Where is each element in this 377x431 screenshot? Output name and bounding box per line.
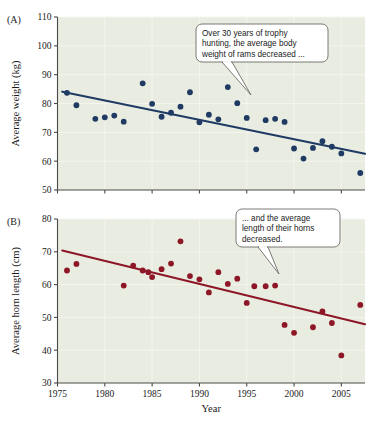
figure-container: 5060708090100110Average weight (kg)(A)30… — [0, 0, 377, 431]
data-point — [225, 84, 231, 90]
x-tick-label-2005: 2005 — [332, 389, 351, 399]
data-point — [301, 156, 307, 162]
x-tick-label-1980: 1980 — [95, 389, 114, 399]
data-point — [64, 90, 70, 96]
data-point — [272, 283, 278, 289]
y-tick-label-B-60: 60 — [42, 280, 52, 290]
data-point — [320, 138, 326, 144]
data-point — [159, 266, 165, 272]
data-point — [74, 102, 80, 108]
y-tick-label-A-90: 90 — [42, 70, 52, 80]
data-point — [320, 309, 326, 315]
panel-label-B: (B) — [7, 216, 20, 228]
data-point — [338, 150, 344, 156]
data-point — [282, 119, 288, 125]
y-tick-label-A-100: 100 — [37, 41, 52, 51]
data-point — [225, 281, 231, 287]
data-point — [102, 114, 108, 120]
data-point — [234, 100, 240, 106]
data-point — [234, 276, 240, 282]
callout-panel-b-line-2: decreased. — [242, 235, 283, 244]
figure-svg: 5060708090100110Average weight (kg)(A)30… — [0, 0, 377, 431]
callout-panel-a-line-0: Over 30 years of trophy — [202, 29, 288, 38]
data-point — [130, 263, 136, 269]
data-point — [206, 290, 212, 296]
x-tick-label-1995: 1995 — [237, 389, 256, 399]
data-point — [357, 302, 363, 308]
data-point — [310, 324, 316, 330]
data-point — [140, 268, 146, 274]
data-point — [187, 89, 193, 95]
data-point — [197, 119, 203, 125]
data-point — [244, 300, 250, 306]
y-tick-label-B-70: 70 — [42, 247, 52, 257]
data-point — [291, 330, 297, 336]
y-tick-label-A-70: 70 — [42, 128, 52, 138]
data-point — [178, 104, 184, 110]
y-tick-label-A-80: 80 — [42, 99, 52, 109]
data-point — [263, 117, 269, 123]
x-tick-label-2000: 2000 — [285, 389, 304, 399]
x-axis-title: Year — [202, 403, 222, 414]
data-point — [206, 112, 212, 118]
panel-label-A: (A) — [7, 14, 21, 26]
y-tick-label-A-110: 110 — [38, 12, 52, 22]
data-point — [291, 146, 297, 152]
callout-panel-b-line-1: length of their horns — [242, 224, 314, 233]
callout-panel-b-line-0: ... and the average — [242, 214, 311, 223]
y-tick-label-B-40: 40 — [42, 346, 52, 356]
y-tick-label-A-50: 50 — [42, 185, 52, 195]
callout-panel-a-line-2: weight of rams decreased ... — [201, 50, 305, 59]
data-point — [140, 80, 146, 86]
x-tick-label-1985: 1985 — [143, 389, 162, 399]
data-point — [282, 322, 288, 328]
data-point — [92, 116, 98, 122]
data-point — [159, 114, 165, 120]
y-tick-label-B-80: 80 — [42, 214, 52, 224]
data-point — [149, 274, 155, 280]
data-point — [357, 170, 363, 176]
data-point — [121, 283, 127, 289]
data-point — [329, 144, 335, 150]
data-point — [197, 276, 203, 282]
data-point — [168, 110, 174, 116]
data-point — [244, 115, 250, 121]
data-point — [111, 113, 117, 119]
data-point — [168, 261, 174, 267]
data-point — [64, 268, 70, 274]
data-point — [74, 261, 80, 267]
data-point — [329, 320, 335, 326]
x-tick-label-1990: 1990 — [190, 389, 209, 399]
callout-panel-a-line-1: hunting, the average body — [202, 39, 298, 48]
data-point — [145, 269, 151, 275]
data-point — [338, 353, 344, 359]
data-point — [215, 269, 221, 275]
data-point — [263, 283, 269, 289]
y-tick-label-B-50: 50 — [42, 313, 52, 323]
data-point — [310, 145, 316, 151]
data-point — [121, 119, 127, 125]
x-tick-label-1975: 1975 — [48, 389, 67, 399]
y-axis-title-A: Average weight (kg) — [10, 60, 22, 147]
y-tick-label-A-60: 60 — [42, 157, 52, 167]
data-point — [187, 273, 193, 279]
data-point — [253, 146, 259, 152]
data-point — [215, 116, 221, 122]
y-tick-label-B-30: 30 — [42, 378, 52, 388]
data-point — [178, 238, 184, 244]
data-point — [251, 283, 257, 289]
data-point — [149, 101, 155, 107]
y-axis-title-B: Average horn length (cm) — [10, 247, 22, 355]
data-point — [272, 116, 278, 122]
